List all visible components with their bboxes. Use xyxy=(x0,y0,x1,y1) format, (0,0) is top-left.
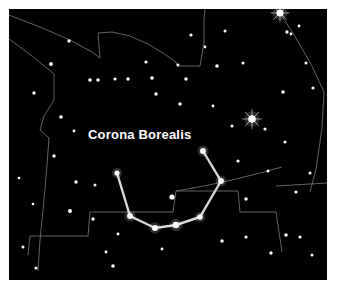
frame-border-right xyxy=(327,0,338,289)
background-star xyxy=(281,90,285,94)
background-star xyxy=(204,46,207,49)
constellation-star-gamma-crb xyxy=(152,225,158,231)
constellation-star-delta-crb xyxy=(197,214,203,220)
background-star xyxy=(178,102,181,105)
background-star xyxy=(285,30,288,33)
background-star xyxy=(224,30,227,33)
background-star xyxy=(248,115,256,123)
background-star xyxy=(311,86,314,89)
background-star xyxy=(161,248,164,251)
background-star xyxy=(290,33,293,36)
boundary-east-step xyxy=(276,183,327,186)
background-star xyxy=(212,105,215,108)
background-star xyxy=(284,141,287,144)
background-star xyxy=(305,62,308,65)
background-star xyxy=(144,60,147,63)
background-star xyxy=(189,33,192,36)
background-star xyxy=(88,78,92,82)
background-star xyxy=(184,77,187,80)
background-star xyxy=(67,39,70,42)
constellation-star-iota-crb xyxy=(218,178,224,184)
boundary-south-arc xyxy=(176,167,282,191)
background-star xyxy=(215,64,219,68)
background-star xyxy=(242,62,245,65)
frame-border-bottom xyxy=(0,280,338,289)
background-star xyxy=(309,172,312,175)
background-star xyxy=(117,233,120,236)
background-star xyxy=(276,9,283,16)
background-star xyxy=(263,127,266,130)
background-star xyxy=(74,180,77,183)
background-star xyxy=(169,194,174,199)
background-star xyxy=(32,203,35,206)
sky-field xyxy=(9,9,327,280)
background-star xyxy=(59,115,63,119)
boundary-north-boundary-arc-right xyxy=(177,9,205,66)
background-star xyxy=(177,64,180,67)
background-star xyxy=(294,190,297,193)
background-star xyxy=(311,254,314,257)
background-star xyxy=(244,235,247,238)
boundary-northeast-diagonal xyxy=(280,13,324,92)
constellation-star-beta-crb xyxy=(127,213,133,219)
background-star xyxy=(220,239,223,242)
background-star xyxy=(231,125,234,128)
boundary-east-boundary xyxy=(310,92,324,192)
background-star xyxy=(269,251,272,254)
background-star xyxy=(49,62,53,66)
constellation-label: Corona Borealis xyxy=(88,128,191,141)
background-star xyxy=(94,184,97,187)
background-star xyxy=(126,77,129,80)
background-star xyxy=(154,92,157,95)
background-star xyxy=(111,264,115,268)
background-star xyxy=(32,91,35,94)
constellation-line-theta-crb-to-beta-crb xyxy=(117,173,130,216)
background-star xyxy=(284,233,288,237)
background-star xyxy=(267,170,270,173)
background-star xyxy=(96,78,99,81)
constellation-star-theta-crb xyxy=(114,170,119,175)
star-chart-figure: Corona Borealis xyxy=(0,0,338,289)
background-star xyxy=(298,235,301,238)
background-star xyxy=(52,154,55,157)
background-star xyxy=(236,159,239,162)
constellation-star-alpha-crb-alphecca xyxy=(173,222,180,229)
background-star xyxy=(34,266,37,269)
background-star xyxy=(22,246,25,249)
constellation-star-layer xyxy=(112,145,226,233)
sky-canvas xyxy=(9,9,327,280)
background-star xyxy=(298,25,301,28)
background-star xyxy=(150,76,154,80)
constellation-star-epsilon-crb xyxy=(200,148,206,154)
background-star xyxy=(105,251,108,254)
background-star xyxy=(18,177,21,180)
background-star xyxy=(73,130,76,133)
background-star xyxy=(91,217,94,220)
background-star xyxy=(68,209,72,213)
background-star xyxy=(244,197,247,200)
background-star xyxy=(113,77,116,80)
